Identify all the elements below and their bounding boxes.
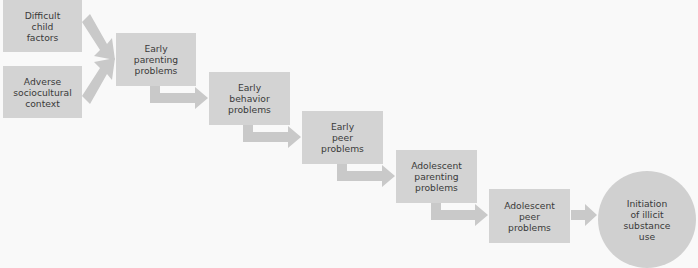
node-label: Early parenting problems [134,43,178,76]
node-label: Initiation of illicit substance use [624,198,671,242]
node-label: Difficult child factors [25,10,61,43]
node-adverse-sociocultural-context: Adverse sociocultural context [3,66,82,118]
arrow-behavior-to-peer [243,125,301,148]
node-initiation-of-illicit-substance-use: Initiation of illicit substance use [598,171,696,268]
node-label: Early peer problems [321,121,364,154]
arrow-adolparenting-to-adolpeer [431,203,488,226]
node-adolescent-parenting-problems: Adolescent parenting problems [396,150,477,203]
node-label: Adolescent peer problems [504,200,555,233]
arrow-context-to-parenting [82,58,115,104]
node-early-parenting-problems: Early parenting problems [116,33,196,86]
node-label: Adolescent parenting problems [411,160,462,193]
node-adolescent-peer-problems: Adolescent peer problems [489,189,570,243]
node-difficult-child-factors: Difficult child factors [3,0,82,52]
node-label: Early behavior problems [228,82,271,115]
arrow-adolpeer-to-outcome [571,204,597,226]
arrow-child-to-parenting [82,14,115,60]
node-early-behavior-problems: Early behavior problems [209,72,290,125]
arrow-peer-to-adolparenting [337,164,395,187]
node-label: Adverse sociocultural context [13,76,71,109]
node-early-peer-problems: Early peer problems [302,111,383,164]
arrow-parenting-to-behavior [150,86,208,109]
